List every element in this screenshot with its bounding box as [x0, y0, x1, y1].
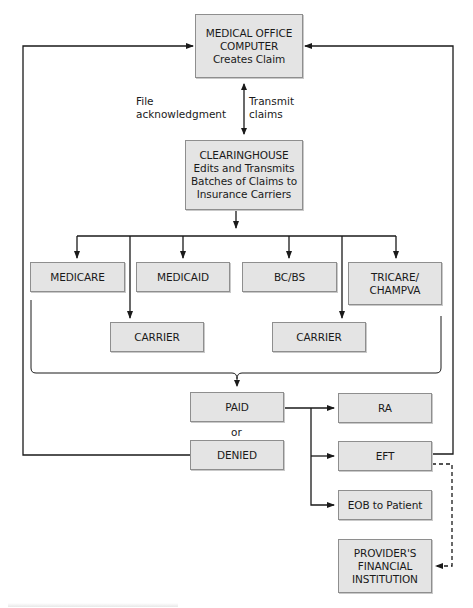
transmit-claims-label: Transmit claims: [249, 95, 294, 121]
eob-to-patient-box: EOB to Patient: [338, 490, 432, 520]
denied-box: DENIED: [190, 440, 284, 470]
clearinghouse-box: CLEARINGHOUSE Edits and Transmits Batche…: [185, 140, 303, 210]
eft-box: EFT: [338, 441, 432, 471]
bcbs-box: BC/BS: [242, 262, 337, 292]
medical-office-line2: COMPUTER: [220, 40, 278, 53]
eft-to-provider-dashed: [432, 464, 452, 566]
providers-financial-institution-box: PROVIDER'S FINANCIAL INSTITUTION: [338, 539, 432, 593]
medicare-box: MEDICARE: [30, 262, 125, 292]
medical-office-line3: Creates Claim: [213, 53, 285, 66]
medical-office-line1: MEDICAL OFFICE: [206, 27, 293, 40]
medical-office-box: MEDICAL OFFICE COMPUTER Creates Claim: [195, 14, 303, 78]
carrier-box-left: CARRIER: [110, 322, 204, 352]
paid-box: PAID: [190, 392, 284, 422]
clipped-caption: [8, 603, 178, 607]
or-label: or: [231, 426, 242, 439]
file-acknowledgment-label: File acknowledgment: [136, 95, 226, 121]
medicaid-box: MEDICAID: [136, 262, 230, 292]
carrier-box-right: CARRIER: [272, 322, 366, 352]
ra-box: RA: [338, 393, 432, 423]
payers-brace: [31, 300, 441, 379]
tricare-champva-box: TRICARE/ CHAMPVA: [348, 262, 442, 305]
